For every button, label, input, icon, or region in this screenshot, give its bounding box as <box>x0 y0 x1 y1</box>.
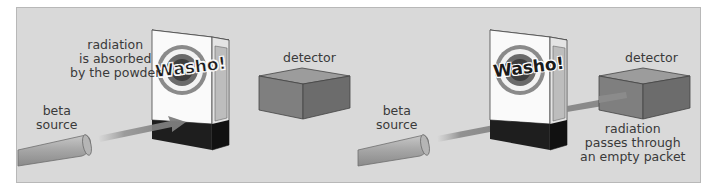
detector-note-right: radiation passes through an empty packet <box>580 122 685 164</box>
beta-source-tube-icon <box>18 134 93 166</box>
beta-source-tube-icon <box>358 134 431 166</box>
detector-label-left: detector <box>283 51 336 65</box>
detector-box-icon <box>259 68 350 119</box>
washing-powder-packet-icon <box>490 30 567 150</box>
beta-source-label-left: beta source <box>36 104 78 132</box>
detector-box-icon <box>599 68 690 119</box>
beta-source-label-right: beta source <box>376 104 418 132</box>
washing-powder-packet-icon <box>152 30 229 150</box>
packet-note-left: radiation is absorbed by the powder <box>70 38 160 80</box>
detector-label-right: detector <box>625 51 678 65</box>
